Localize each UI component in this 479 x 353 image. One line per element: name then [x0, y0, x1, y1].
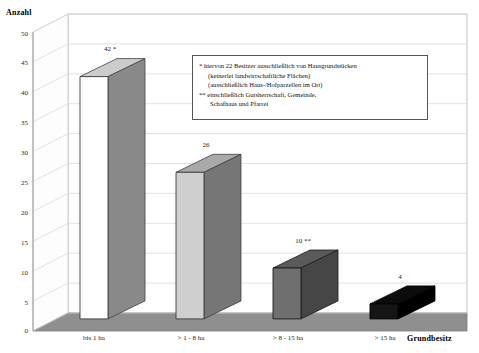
bar-2-front [176, 172, 204, 319]
footnote-line-4: ** einschließlich Gutsherrschaft, Gemein… [199, 90, 421, 100]
y-tick-50: 50 [6, 30, 28, 38]
footnote-box: * hiervon 22 Besitzer ausschließlich von… [192, 55, 428, 120]
y-tick-40: 40 [6, 89, 28, 97]
y-tick-25: 25 [6, 179, 28, 187]
bar-1-side [108, 59, 145, 319]
bar-value-4: 4 [398, 273, 402, 281]
y-tick-10: 10 [6, 269, 28, 277]
y-tick-15: 15 [6, 239, 28, 247]
footnote-line-3: (ausschließlich Haus-/Hofparzellen im Or… [199, 80, 421, 90]
y-tick-30: 30 [6, 149, 28, 157]
footnote-line-1: * hiervon 22 Besitzer ausschließlich von… [199, 61, 421, 71]
y-axis-title: Anzahl [6, 8, 32, 17]
y-tick-45: 45 [6, 59, 28, 67]
x-axis-title: Grundbesitz [407, 334, 452, 343]
bar-value-2: 26 [203, 141, 210, 149]
bar-group-1 [80, 59, 145, 319]
footnote-line-5: Schafhaus und Pfarrei [199, 99, 421, 109]
footnote-line-2: (keinerlei landwirtschaftliche Flächen) [199, 71, 421, 81]
bar-value-3: 10 ** [295, 237, 311, 245]
bar-2-side [204, 154, 241, 319]
bar-4-front [370, 304, 398, 319]
bar-1-front [80, 77, 108, 319]
x-tick-8-15-ha: > 8 - 15 ha [273, 334, 303, 342]
bar-group-2 [176, 154, 241, 319]
y-tick-5: 5 [6, 299, 28, 307]
y-tick-0: 0 [6, 327, 28, 335]
bar-3-front [273, 268, 301, 319]
x-tick-bis-1-ha: bis 1 ha [83, 334, 105, 342]
bar-value-1: 42 * [104, 45, 116, 53]
bar-chart-figure: Anzahl Grundbesitz 50 45 40 35 30 25 20 … [0, 0, 479, 353]
plot-area [0, 0, 479, 353]
x-tick-1-8-ha: > 1 - 8 ha [178, 334, 205, 342]
y-tick-35: 35 [6, 119, 28, 127]
y-tick-20: 20 [6, 209, 28, 217]
x-tick-over-15-ha: > 15 ha [374, 334, 395, 342]
